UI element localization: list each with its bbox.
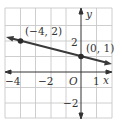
point-label-neg4-2: (−4, 2) [25, 25, 62, 37]
coordinate-plane: (−4, 2) (0, 1) y x O −4 −2 1 2 −2 [0, 0, 122, 127]
x-tick-neg4: −4 [5, 75, 21, 87]
line-right-arrow-icon [104, 60, 112, 66]
x-axis-label: x [103, 74, 109, 86]
x-tick-neg2: −2 [38, 75, 53, 87]
y-axis-up-arrow-icon [79, 8, 83, 14]
y-tick-neg2: −2 [63, 97, 78, 109]
origin-label: O [69, 75, 78, 87]
y-axis [79, 8, 83, 119]
x-axis-left-arrow-icon [5, 70, 11, 74]
x-tick-1: 1 [93, 75, 100, 87]
point-label-0-1: (0, 1) [86, 42, 114, 54]
y-tick-2: 2 [71, 36, 78, 48]
point-0-1 [78, 54, 84, 60]
x-axis [5, 70, 112, 74]
y-axis-label: y [85, 8, 93, 20]
point-neg4-2 [18, 38, 24, 44]
